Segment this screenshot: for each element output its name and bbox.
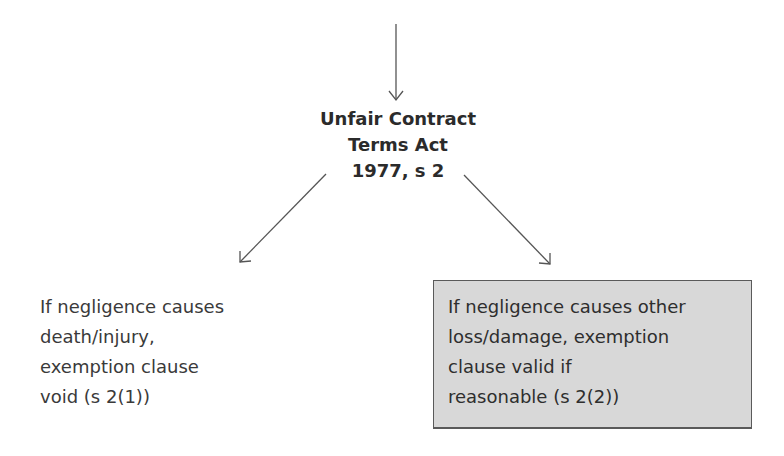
death-injury-branch-node: If negligence causes death/injury, exemp… (40, 292, 224, 412)
branch-line: clause valid if (448, 352, 751, 382)
branch-line: loss/damage, exemption (448, 322, 751, 352)
title-line: Unfair Contract (298, 106, 498, 132)
left-branch-arrow-icon (240, 174, 326, 262)
branch-line: void (s 2(1)) (40, 382, 224, 412)
branch-line: If negligence causes other (448, 292, 751, 322)
branch-line: reasonable (s 2(2)) (448, 382, 751, 412)
other-loss-branch-box: If negligence causes other loss/damage, … (433, 280, 752, 429)
statute-title-node: Unfair Contract Terms Act 1977, s 2 (298, 106, 498, 184)
incoming-arrow-icon (389, 24, 403, 100)
branch-line: If negligence causes (40, 292, 224, 322)
title-line: 1977, s 2 (298, 158, 498, 184)
branch-line: death/injury, (40, 322, 224, 352)
title-line: Terms Act (298, 132, 498, 158)
branch-line: exemption clause (40, 352, 224, 382)
right-branch-arrow-icon (464, 175, 550, 264)
